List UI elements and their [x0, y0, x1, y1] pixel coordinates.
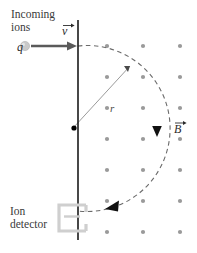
- magnetic-field-dot: [178, 44, 182, 48]
- magnetic-field-dot: [105, 75, 109, 79]
- magnetic-field-dot: [178, 230, 182, 234]
- circle-center-dot: [71, 125, 76, 130]
- magnetic-field-dot: [105, 230, 109, 234]
- physics-diagram-ion-path: Incoming ions Ion detector q v B r: [0, 0, 197, 253]
- label-velocity-vector: v: [62, 24, 67, 39]
- magnetic-field-dot: [105, 168, 109, 172]
- magnetic-field-dot: [105, 106, 109, 110]
- label-ion-detector: Ion detector: [10, 205, 47, 231]
- ion-detector-bracket: [59, 205, 86, 231]
- label-radius-r: r: [110, 102, 114, 114]
- magnetic-field-dot: [141, 230, 145, 234]
- radius-line: [74, 66, 130, 127]
- magnetic-field-dot: [141, 106, 145, 110]
- magnetic-field-dot: [141, 137, 145, 141]
- magnetic-field-dot: [178, 199, 182, 203]
- magnetic-field-dot: [178, 168, 182, 172]
- magnetic-field-dot: [178, 137, 182, 141]
- magnetic-field-dot: [141, 44, 145, 48]
- magnetic-field-dot: [141, 199, 145, 203]
- magnetic-field-dot: [141, 168, 145, 172]
- label-magnetic-field-vector: B: [174, 122, 181, 137]
- magnetic-field-dot: [105, 199, 109, 203]
- magnetic-field-dot: [178, 106, 182, 110]
- magnetic-field-dot: [178, 75, 182, 79]
- magnetic-field-dot: [105, 137, 109, 141]
- magnetic-field-dot: [141, 75, 145, 79]
- arrowhead-down-right-icon: [152, 126, 162, 137]
- velocity-arrowhead-icon: [67, 42, 77, 51]
- label-incoming-ions: Incoming ions: [11, 8, 55, 34]
- label-charge-q: q: [17, 40, 23, 55]
